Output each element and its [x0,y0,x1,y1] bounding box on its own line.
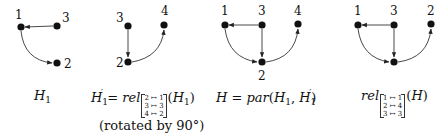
node-label: 2 [116,56,124,70]
node-3 [390,21,397,28]
node-1 [354,21,361,28]
node-label: 3 [62,11,70,25]
node-1 [221,21,228,28]
node-label: 2 [427,4,435,18]
caption-sep: , [291,90,299,105]
node-label: 2 [64,57,72,71]
caption-paren: ) [423,88,428,103]
node-label: 1 [354,4,362,18]
caption-subscript: 1 [45,95,51,105]
edge-3-to-1 [25,26,53,27]
mapping-row: 1 ↦ 1 [383,94,402,102]
mapping-matrix: 2 ↦ 13 ↦ 34 ↦ 2 [141,94,166,118]
node-label: 4 [161,4,169,18]
node-label: 4 [294,4,302,18]
node-label: 1 [221,4,229,18]
edge-1-to-2 [225,29,257,62]
node-label: 2 [258,69,266,83]
mapping-row: 3 ↦ 3 [144,102,163,110]
node-2 [124,58,131,65]
caption-symbol: H [34,88,45,103]
edge-bottom-to-2 [398,29,431,62]
edge-2-to-4 [266,29,298,62]
edge-1-to-bottom [358,29,389,62]
graph-diagram: 1 3 2 3 4 2 1 3 4 2 1 [0,0,448,139]
edge-2-to-4 [132,30,164,62]
node-label: 3 [390,4,398,18]
caption-lhs: H [216,90,227,105]
caption-arg: H [411,88,422,103]
graph-rel-h: 1 3 2 [354,4,435,66]
caption-arg: H [173,90,184,105]
node-label: 1 [15,8,23,22]
caption-h1-prime: H1′ = rel2 ↦ 13 ↦ 34 ↦ 2(H1) [91,88,195,112]
caption-rel-h: rel1 ↦ 12 ↦ 43 ↦ 3(H) [361,88,428,112]
graph-h: 1 3 4 2 [221,4,302,83]
graph-h1: 1 3 2 [15,8,72,71]
node-2 [258,58,265,65]
edge-1-to-2 [21,31,52,63]
mapping-row: 3 ↦ 3 [383,110,402,118]
caption-fn: par [247,90,269,105]
node-4 [294,20,301,27]
caption-h1: H1 [34,88,51,105]
node-1 [17,23,24,30]
mapping-row: 2 ↦ 1 [144,94,163,102]
node-4 [160,21,167,28]
caption-rotation-note: (rotated by 90°) [99,118,204,133]
node-3 [258,21,265,28]
node-label: 3 [258,4,266,18]
caption-eq: = [103,90,122,105]
node-2 [427,20,434,27]
node-3 [53,22,60,29]
mapping-row: 4 ↦ 2 [144,110,163,118]
node-2 [53,59,60,66]
mapping-matrix: 1 ↦ 12 ↦ 43 ↦ 3 [380,94,405,118]
caption-arg1: H [274,90,285,105]
graph-h1-prime: 3 4 2 [116,4,169,70]
caption-fn: rel [122,90,140,105]
caption-fn: rel [361,88,379,103]
caption-paren: ) [311,90,316,105]
caption-paren: ) [190,90,195,105]
node-3 [124,22,131,29]
node-label: 3 [116,11,124,25]
caption-h: H = par(H1, H1′) [216,88,316,107]
caption-eq: = [227,90,246,105]
mapping-row: 2 ↦ 4 [383,102,402,110]
node-bottom [390,58,397,65]
